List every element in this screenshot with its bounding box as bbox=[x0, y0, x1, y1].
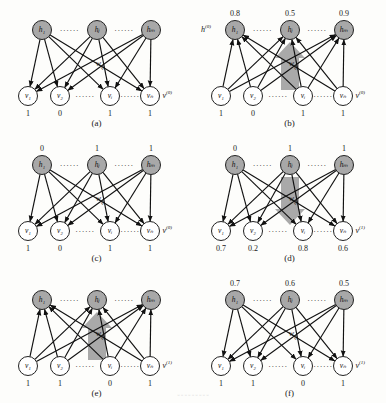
hidden-node-label-1: h₁ bbox=[221, 25, 249, 34]
visible-state-label: v(0) bbox=[163, 225, 172, 235]
panel-e: h₁hⱼhₘv₁v₂vᵢvₙ························11… bbox=[0, 270, 193, 403]
panel-c: h₁hⱼhₘv₁v₂vᵢvₙ························01… bbox=[0, 135, 193, 270]
visible-node-label-1: v₁ bbox=[207, 226, 235, 235]
visible-state-superscript: (0) bbox=[166, 225, 172, 230]
weight-label: wij bbox=[96, 59, 104, 70]
visible-value-4: 1 bbox=[134, 244, 166, 253]
visible-ellipsis-1: ······ bbox=[72, 362, 98, 371]
edges bbox=[30, 34, 151, 91]
hidden-ellipsis-1: ······ bbox=[57, 296, 83, 305]
visible-value-3: 0 bbox=[94, 379, 126, 388]
visible-state-label: v(1) bbox=[163, 360, 172, 370]
hidden-node-label-3: hₘ bbox=[137, 160, 165, 169]
visible-ellipsis-2: ······ bbox=[117, 227, 143, 236]
hidden-node-label-3: hₘ bbox=[330, 25, 358, 34]
visible-node-label-1: v₁ bbox=[207, 361, 235, 370]
hidden-ellipsis-2: ······ bbox=[111, 296, 137, 305]
hidden-state-superscript: (0) bbox=[205, 24, 211, 29]
visible-node-label-2: v₂ bbox=[46, 361, 74, 370]
visible-ellipsis-2: ······ bbox=[310, 227, 336, 236]
visible-value-4: 1 bbox=[134, 379, 166, 388]
visible-state-superscript: (0) bbox=[166, 90, 172, 95]
visible-value-2: 0 bbox=[237, 109, 269, 118]
hidden-node-label-2: hⱼ bbox=[83, 25, 111, 34]
visible-node-label-1: v₁ bbox=[14, 226, 42, 235]
hidden-node-label-3: hₘ bbox=[330, 295, 358, 304]
hidden-ellipsis-2: ······ bbox=[304, 296, 330, 305]
hidden-node-label-1: h₁ bbox=[221, 295, 249, 304]
panel-caption-d: (d) bbox=[193, 253, 386, 263]
hidden-value-1: 0.8 bbox=[219, 9, 251, 18]
visible-ellipsis-1: ······ bbox=[265, 227, 291, 236]
hidden-value-3: 0.9 bbox=[328, 9, 360, 18]
visible-value-4: 1 bbox=[327, 379, 359, 388]
visible-value-1: 0.7 bbox=[205, 244, 237, 253]
hidden-value-2: 0.5 bbox=[274, 9, 306, 18]
visible-value-1: 1 bbox=[12, 244, 44, 253]
visible-state-superscript: (0) bbox=[359, 90, 365, 95]
weight-label: wij bbox=[289, 329, 297, 340]
hidden-ellipsis-1: ······ bbox=[57, 161, 83, 170]
visible-value-2: 1 bbox=[237, 379, 269, 388]
visible-value-2: 0 bbox=[44, 109, 76, 118]
visible-value-4: 0.6 bbox=[327, 244, 359, 253]
panel-b: h₁hⱼhₘv₁v₂vᵢvₙ························0.… bbox=[193, 0, 386, 135]
hidden-node-label-2: hⱼ bbox=[276, 25, 304, 34]
hidden-value-1: 0 bbox=[26, 144, 58, 153]
hidden-node-label-2: hⱼ bbox=[83, 295, 111, 304]
visible-node-label-2: v₂ bbox=[239, 91, 267, 100]
visible-value-3: 1 bbox=[94, 109, 126, 118]
hidden-value-2: 1 bbox=[274, 144, 306, 153]
visible-node-label-2: v₂ bbox=[46, 226, 74, 235]
visible-state-superscript: (1) bbox=[359, 225, 365, 230]
hidden-node-label-1: h₁ bbox=[221, 160, 249, 169]
visible-value-2: 0.2 bbox=[237, 244, 269, 253]
hidden-value-3: 1 bbox=[328, 144, 360, 153]
hidden-ellipsis-2: ······ bbox=[111, 161, 137, 170]
visible-ellipsis-2: ······ bbox=[310, 362, 336, 371]
visible-value-2: 0 bbox=[44, 244, 76, 253]
bottom-cropped-caption: ▫ ▫ ▫ ▫ ▫ ▫ ▫ ▫ ▫ bbox=[0, 392, 386, 403]
weight-label: wij bbox=[96, 329, 104, 340]
visible-state-label: v(1) bbox=[356, 360, 365, 370]
visible-value-3: 1 bbox=[94, 244, 126, 253]
visible-value-3: 1 bbox=[287, 109, 319, 118]
visible-value-3: 0.8 bbox=[287, 244, 319, 253]
hidden-ellipsis-1: ······ bbox=[57, 26, 83, 35]
weight-label-subscript: ij bbox=[101, 199, 104, 205]
weight-label: wij bbox=[289, 194, 297, 205]
hidden-node-label-1: h₁ bbox=[28, 25, 56, 34]
hidden-ellipsis-2: ······ bbox=[304, 161, 330, 170]
visible-ellipsis-1: ······ bbox=[265, 362, 291, 371]
visible-value-3: 0 bbox=[287, 379, 319, 388]
hidden-value-2: 1 bbox=[81, 144, 113, 153]
hidden-value-3: 0.5 bbox=[328, 279, 360, 288]
visible-node-label-2: v₂ bbox=[46, 91, 74, 100]
visible-state-label: v(0) bbox=[163, 90, 172, 100]
weight-label-subscript: ij bbox=[294, 334, 297, 340]
hidden-node-label-2: hⱼ bbox=[83, 160, 111, 169]
panel-caption-c: (c) bbox=[0, 253, 193, 263]
hidden-ellipsis-2: ······ bbox=[111, 26, 137, 35]
weight-label: wij bbox=[289, 59, 297, 70]
hidden-ellipsis-1: ······ bbox=[250, 296, 276, 305]
visible-ellipsis-2: ······ bbox=[310, 92, 336, 101]
hidden-value-1: 0.7 bbox=[219, 279, 251, 288]
visible-node-label-1: v₁ bbox=[14, 91, 42, 100]
panel-d: h₁hⱼhₘv₁v₂vᵢvₙ························01… bbox=[193, 135, 386, 270]
hidden-value-1: 0 bbox=[219, 144, 251, 153]
visible-value-4: 1 bbox=[134, 109, 166, 118]
hidden-state-label: h(0) bbox=[201, 24, 211, 34]
hidden-ellipsis-1: ······ bbox=[250, 26, 276, 35]
visible-state-superscript: (1) bbox=[166, 360, 172, 365]
visible-ellipsis-1: ······ bbox=[72, 227, 98, 236]
panel-f: h₁hⱼhₘv₁v₂vᵢvₙ························0.… bbox=[193, 270, 386, 403]
visible-ellipsis-2: ······ bbox=[117, 92, 143, 101]
panel-caption-b: (b) bbox=[193, 118, 386, 128]
visible-state-superscript: (1) bbox=[359, 360, 365, 365]
visible-value-1: 1 bbox=[12, 379, 44, 388]
visible-ellipsis-1: ······ bbox=[72, 92, 98, 101]
weight-label-subscript: ij bbox=[294, 199, 297, 205]
visible-value-1: 1 bbox=[205, 109, 237, 118]
panel-caption-a: (a) bbox=[0, 118, 193, 128]
